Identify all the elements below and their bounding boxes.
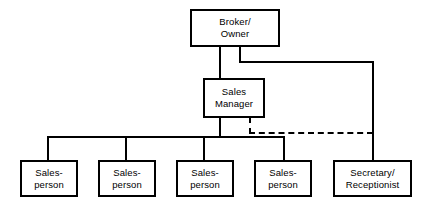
node-salesperson-4[interactable]: Sales- person (254, 160, 312, 197)
node-salesperson-1-label: Sales- person (34, 167, 64, 191)
node-broker-owner[interactable]: Broker/ Owner (190, 9, 280, 47)
node-secretary-receptionist[interactable]: Secretary/ Receptionist (333, 160, 412, 197)
node-salesperson-3-label: Sales- person (190, 167, 220, 191)
connector-salesperson-bus (47, 136, 285, 138)
node-secretary-receptionist-label: Secretary/ Receptionist (346, 167, 399, 191)
connector-drop-salesperson-3 (203, 136, 205, 162)
org-chart-diagram: Broker/ Owner Sales Manager Sales- perso… (0, 0, 427, 208)
connector-sales-manager-drop (219, 116, 221, 138)
node-sales-manager-label: Sales Manager (215, 86, 253, 110)
node-broker-owner-label: Broker/ Owner (219, 16, 250, 40)
node-salesperson-1[interactable]: Sales- person (20, 160, 78, 197)
node-salesperson-2-label: Sales- person (112, 167, 142, 191)
connector-secretary-vertical (372, 61, 374, 162)
connector-drop-salesperson-4 (283, 136, 285, 162)
node-salesperson-2[interactable]: Sales- person (98, 160, 156, 197)
connector-dashed-to-secretary (249, 132, 373, 134)
connector-drop-salesperson-2 (125, 136, 127, 162)
connector-broker-to-sales-manager-vertical (219, 45, 221, 80)
connector-broker-to-secretary-horizontal (239, 61, 374, 63)
node-salesperson-4-label: Sales- person (268, 167, 298, 191)
node-salesperson-3[interactable]: Sales- person (176, 160, 234, 197)
node-sales-manager[interactable]: Sales Manager (203, 78, 265, 118)
connector-drop-salesperson-1 (47, 136, 49, 162)
